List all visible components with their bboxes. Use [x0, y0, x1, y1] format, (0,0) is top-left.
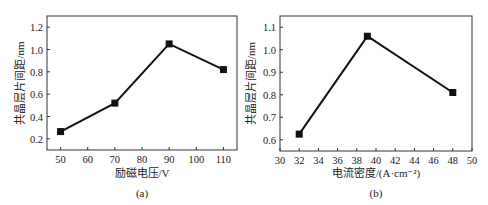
y-tick-label: 0.8 [30, 67, 43, 78]
x-tick-label: 34 [313, 155, 324, 166]
data-line [299, 36, 453, 134]
y-tick-label: 0.2 [30, 134, 43, 145]
x-tick-label: 42 [390, 155, 401, 166]
x-tick-label: 110 [216, 154, 231, 165]
data-point-marker [296, 131, 303, 138]
x-tick-label: 40 [371, 155, 382, 166]
x-tick-label: 80 [137, 154, 148, 165]
x-tick-label: 46 [428, 155, 439, 166]
y-tick-label: 0.4 [30, 112, 44, 123]
data-point-marker [364, 33, 371, 40]
x-tick-label: 44 [409, 155, 420, 166]
y-tick-label: 1.1 [263, 22, 276, 33]
data-point-marker [449, 89, 456, 96]
data-point-marker [57, 128, 64, 135]
y-tick-label: 0.8 [263, 90, 276, 101]
y-tick-label: 1.0 [30, 45, 43, 56]
y-axis-label: 共晶层片间距/nm [245, 42, 257, 126]
y-axis-label: 共晶层片间距/nm [14, 41, 26, 125]
panel-caption: (a) [136, 187, 149, 200]
panel-caption: (b) [370, 187, 383, 200]
chart-panel-b: 30323436384042444648500.60.70.80.91.01.1… [245, 16, 477, 200]
x-tick-label: 70 [110, 154, 121, 165]
x-tick-label: 100 [188, 154, 204, 165]
x-tick-label: 32 [294, 155, 305, 166]
y-tick-label: 0.6 [263, 135, 276, 146]
plot-frame [47, 16, 237, 150]
data-point-marker [166, 40, 173, 47]
x-axis-label: 励磁电压/V [115, 167, 170, 179]
x-tick-label: 60 [82, 154, 93, 165]
y-tick-label: 0.6 [30, 89, 43, 100]
x-tick-label: 50 [55, 154, 66, 165]
x-tick-label: 36 [332, 155, 343, 166]
y-tick-label: 1.0 [263, 45, 276, 56]
y-tick-label: 0.9 [263, 67, 276, 78]
data-point-marker [220, 66, 227, 73]
chart-panel-a: 50607080901001100.20.40.60.81.01.2励磁电压/V… [14, 16, 237, 200]
y-tick-label: 0.7 [263, 112, 276, 123]
y-tick-label: 1.2 [30, 22, 43, 33]
x-tick-label: 48 [448, 155, 459, 166]
x-tick-label: 90 [164, 154, 175, 165]
x-tick-label: 38 [352, 155, 363, 166]
figure: 50607080901001100.20.40.60.81.01.2励磁电压/V… [0, 0, 488, 205]
data-line [61, 44, 224, 132]
data-point-marker [111, 100, 118, 107]
x-axis-label: 电流密度/(A·cm⁻²) [332, 166, 421, 180]
x-tick-label: 30 [275, 155, 286, 166]
x-tick-label: 50 [467, 155, 478, 166]
plot-frame [280, 16, 472, 151]
